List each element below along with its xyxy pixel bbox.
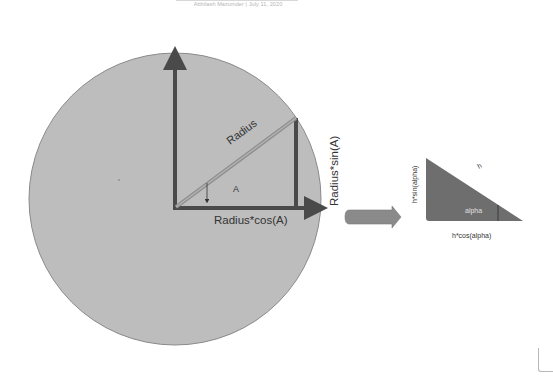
trig-diagram: Radius A Radius*cos(A) Radius*sin(A) h a… xyxy=(0,0,553,377)
triangle-sin-label: h*sin(alpha) xyxy=(411,166,419,203)
triangle-alpha-label: alpha xyxy=(465,207,482,215)
angle-a-label: A xyxy=(233,184,239,194)
sin-label: Radius*sin(A) xyxy=(328,136,340,206)
corner-bracket xyxy=(538,348,553,372)
triangle-hypotenuse-label: h xyxy=(476,162,483,170)
cos-label: Radius*cos(A) xyxy=(214,214,288,226)
triangle-cos-label: h*cos(alpha) xyxy=(452,232,491,240)
transform-block-arrow xyxy=(345,206,401,228)
